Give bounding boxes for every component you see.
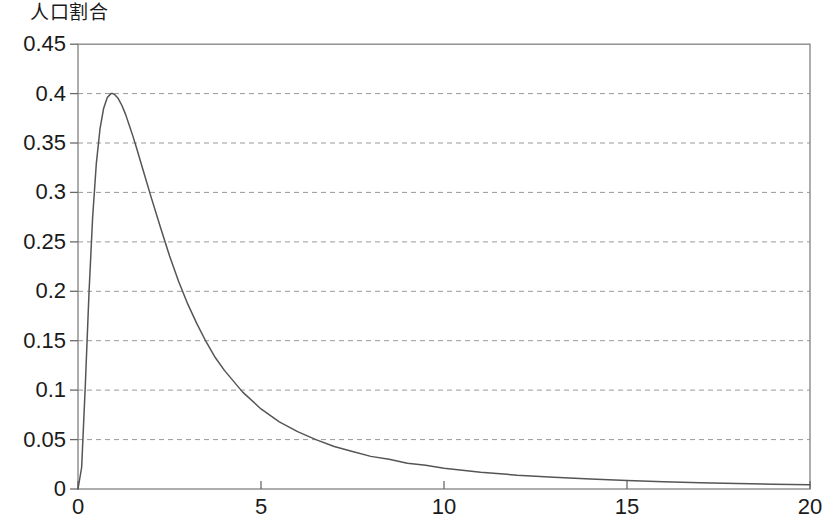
y-tick-label: 0.3 <box>35 181 66 203</box>
y-tick-label: 0.05 <box>23 429 66 451</box>
y-tick-label: 0.2 <box>35 280 66 302</box>
y-tick-marks <box>70 44 78 489</box>
x-tick-label: 10 <box>414 496 474 518</box>
x-tick-label: 20 <box>780 496 824 518</box>
y-tick-label: 0.45 <box>23 33 66 55</box>
x-tick-label: 5 <box>231 496 291 518</box>
x-tick-label: 15 <box>597 496 657 518</box>
plot-area-svg <box>0 0 824 526</box>
y-tick-label: 0.4 <box>35 83 66 105</box>
y-tick-label: 0.25 <box>23 231 66 253</box>
y-tick-label: 0.1 <box>35 379 66 401</box>
y-tick-label: 0.35 <box>23 132 66 154</box>
x-tick-label: 0 <box>48 496 108 518</box>
y-tick-label: 0.15 <box>23 330 66 352</box>
chart-container: 人口割合 <box>0 0 824 526</box>
plot-frame <box>78 44 810 489</box>
gridlines <box>78 94 810 440</box>
